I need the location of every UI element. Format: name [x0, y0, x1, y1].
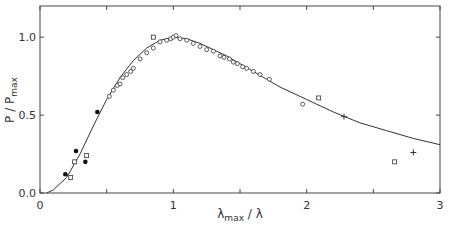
data-point-open-circle [131, 66, 135, 70]
y-axis-label: P / Pmax [3, 76, 19, 122]
data-point-open-circle [174, 34, 178, 38]
x-tick-label: 2 [303, 199, 310, 212]
data-point-open-circle [191, 41, 195, 45]
data-point-open-circle [185, 38, 189, 42]
data-point-open-circle [222, 55, 226, 59]
data-point-filled-circle [83, 160, 88, 165]
data-point-open-circle [267, 77, 271, 81]
data-point-open-circle [251, 69, 255, 73]
data-point-open-circle [211, 49, 215, 53]
data-point-open-circle [227, 57, 231, 61]
data-point-open-circle [165, 38, 169, 42]
data-point-open-circle [151, 46, 155, 50]
data-point-open-circle [158, 40, 162, 44]
data-point-open-circle [178, 37, 182, 41]
data-point-open-circle [235, 62, 239, 66]
data-point-plus [341, 114, 347, 120]
data-point-filled-circle [74, 149, 79, 154]
data-point-open-circle [301, 102, 305, 106]
data-point-plus [410, 149, 416, 155]
data-point-filled-circle [95, 110, 100, 115]
data-point-open-circle [111, 88, 115, 92]
data-point-open-circle [218, 54, 222, 58]
data-point-open-circle [121, 76, 125, 80]
data-point-open-square [393, 160, 397, 164]
data-point-open-square [69, 175, 73, 179]
data-point-open-circle [145, 51, 149, 55]
data-point-open-circle [241, 65, 245, 69]
data-point-open-square [73, 160, 77, 164]
plot-frame [40, 6, 440, 193]
data-point-open-square [317, 96, 321, 100]
x-tick-label: 0 [37, 199, 44, 212]
data-point-open-square [85, 154, 89, 158]
data-point-open-circle [125, 73, 129, 77]
y-tick-label: 1.0 [19, 31, 37, 44]
data-point-open-circle [138, 57, 142, 61]
y-tick-label: 0.0 [19, 187, 37, 200]
data-point-open-circle [107, 94, 111, 98]
x-tick-label: 1 [170, 199, 177, 212]
data-point-open-square [151, 35, 155, 39]
x-tick-label: 3 [437, 199, 444, 212]
data-point-open-circle [245, 66, 249, 70]
fit-curve [47, 37, 440, 193]
data-point-filled-circle [63, 172, 68, 177]
chart: 01230.00.51.0λmax / λP / Pmax [0, 0, 449, 227]
data-point-open-circle [205, 48, 209, 52]
x-axis-label: λmax / λ [217, 207, 263, 223]
data-point-open-circle [231, 60, 235, 64]
y-tick-label: 0.5 [19, 109, 37, 122]
data-point-open-circle [118, 82, 122, 86]
data-point-open-circle [198, 45, 202, 49]
data-point-open-circle [258, 73, 262, 77]
